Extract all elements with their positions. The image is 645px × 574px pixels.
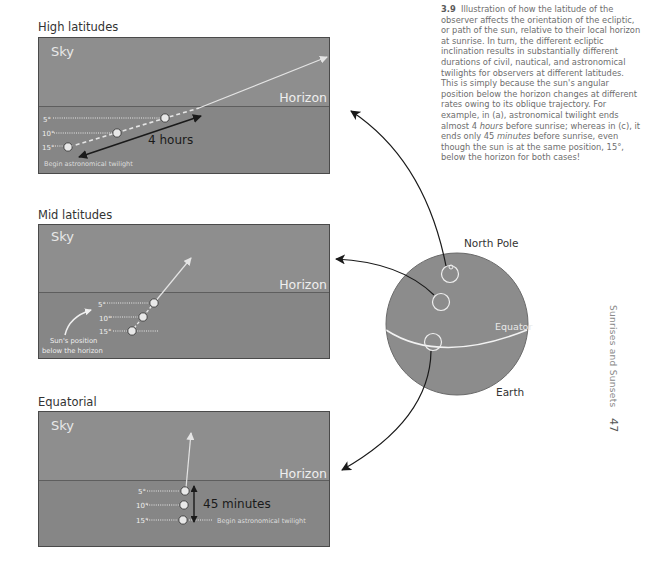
arrow-to-high-latitudes	[351, 111, 446, 266]
earth-label: Earth	[496, 386, 524, 398]
earth-diagram: Equator	[0, 0, 645, 574]
running-head: Sunrises and Sunsets	[608, 305, 618, 407]
page-number: 47	[607, 418, 620, 433]
equator-label: Equator	[495, 321, 532, 332]
north-pole-label: North Pole	[464, 237, 518, 249]
